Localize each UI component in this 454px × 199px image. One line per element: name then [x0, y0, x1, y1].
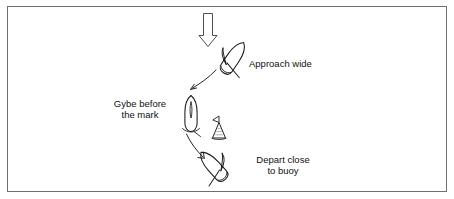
track-arrow-approach-to-gybe — [191, 70, 216, 89]
label-approach-wide: Approach wide — [249, 58, 312, 69]
label-gybe-line-1: Gybe before — [114, 98, 166, 109]
boat-gybe-before-mark — [183, 96, 201, 137]
track-arrow-gybe-to-depart — [187, 134, 205, 158]
label-depart-line-1: Depart close — [256, 154, 309, 165]
diagram-artwork — [0, 0, 454, 199]
wind-direction-arrow — [199, 14, 217, 47]
sailing-tactics-diagram: Approach wide Gybe beforethe mark Depart… — [0, 0, 454, 199]
label-gybe-before-the-mark: Gybe beforethe mark — [101, 98, 179, 120]
buoy-mark — [212, 116, 227, 140]
label-depart-close-to-buoy: Depart closeto buoy — [244, 154, 322, 176]
label-depart-line-2: to buoy — [267, 165, 298, 176]
label-gybe-line-2: the mark — [122, 109, 159, 120]
